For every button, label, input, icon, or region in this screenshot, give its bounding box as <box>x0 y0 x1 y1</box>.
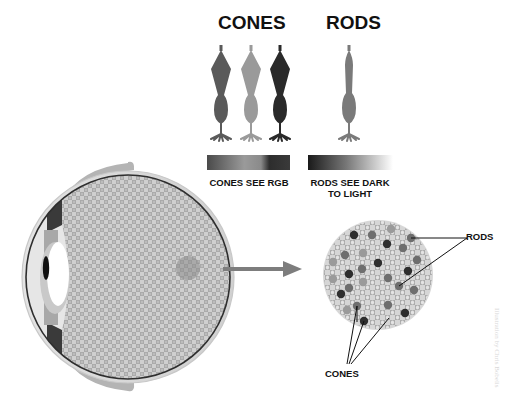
photoreceptor-dot <box>341 251 349 259</box>
magnify-arrow <box>223 261 302 277</box>
photoreceptor-dot <box>337 290 345 298</box>
cone-cell-1 <box>211 45 231 141</box>
eyeball-illustration <box>0 162 240 392</box>
photoreceptor-dot <box>329 258 337 266</box>
photoreceptor-dot <box>359 249 367 257</box>
cones-rgb-gradient-bar <box>207 155 290 170</box>
photoreceptor-dot <box>387 225 395 233</box>
rods-dark-light-gradient-bar <box>308 155 393 170</box>
photoreceptor-dot <box>413 256 421 264</box>
rods-caption: RODS SEE DARK TO LIGHT <box>300 177 400 199</box>
photoreceptor-dot <box>350 231 358 239</box>
photoreceptor-dot <box>399 244 407 252</box>
cones-callout-label: CONES <box>325 368 359 379</box>
rods-caption-line1: RODS SEE DARK <box>300 177 400 188</box>
rods-callout-label: RODS <box>466 231 493 242</box>
photoreceptor-dot <box>359 278 367 286</box>
cones-caption: CONES SEE RGB <box>200 177 298 188</box>
photoreceptor-dot <box>384 301 392 309</box>
rod-cell <box>339 45 359 141</box>
photoreceptor-dot <box>343 306 351 314</box>
diagram-graphics <box>0 0 513 397</box>
cone-cell-2 <box>241 45 261 141</box>
photoreceptor-dot <box>358 265 366 273</box>
photoreceptor-dot <box>401 309 409 317</box>
photoreceptor-dot <box>368 231 376 239</box>
rods-heading: RODS <box>326 12 381 34</box>
photoreceptor-dot <box>384 274 392 282</box>
rods-caption-line2: TO LIGHT <box>300 188 400 199</box>
cones-heading: CONES <box>218 12 286 34</box>
illustrator-credit: Illustration by Chris Bobelis <box>493 308 501 388</box>
retina-closeup <box>320 218 440 338</box>
photoreceptor-dot <box>345 270 353 278</box>
photoreceptor-dot <box>374 259 382 267</box>
photoreceptor-dot <box>383 240 391 248</box>
photoreceptor-dot <box>410 286 418 294</box>
photoreceptor-dot <box>345 284 353 292</box>
cone-cell-3 <box>270 45 290 141</box>
photoreceptor-dot <box>404 267 412 275</box>
photoreceptor-dot <box>329 275 337 283</box>
